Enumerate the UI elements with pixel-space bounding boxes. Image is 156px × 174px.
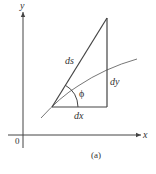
angle-arc xyxy=(65,85,78,107)
dy-label: dy xyxy=(110,76,120,87)
origin-label: 0 xyxy=(15,136,20,146)
arc-length-diagram: y x 0 ds dy dx ϕ (a) xyxy=(0,0,156,174)
diagram-canvas: y x 0 ds dy dx ϕ (a) xyxy=(0,0,156,174)
y-axis-label: y xyxy=(19,0,25,11)
dx-label: dx xyxy=(74,110,84,121)
curve xyxy=(41,59,137,118)
phi-label: ϕ xyxy=(79,88,84,99)
figure-caption: (a) xyxy=(91,150,101,160)
x-axis-label: x xyxy=(142,129,148,140)
ds-label: ds xyxy=(65,55,74,66)
